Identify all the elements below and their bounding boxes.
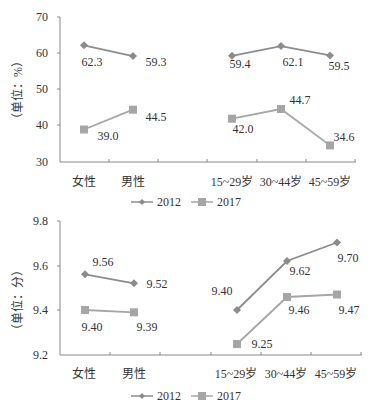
chart-canvas: （单位：%） 70 60 50 40 30 女性 男性 15~29岁 30~44… bbox=[0, 0, 372, 415]
top-label-2012-male: 59.3 bbox=[146, 55, 167, 69]
bottom-xcat-male: 男性 bbox=[122, 367, 146, 381]
top-ytick-70: 70 bbox=[36, 10, 48, 24]
top-label-2017-30-44: 44.7 bbox=[290, 93, 311, 107]
legend-diamond-icon bbox=[139, 199, 145, 205]
bottom-y-axis-label: （单位：分） bbox=[10, 264, 25, 336]
top-legend-2012: 2012 bbox=[157, 195, 181, 209]
bottom-label-2012-45-59: 9.70 bbox=[338, 251, 359, 265]
top-series-2017: 39.0 44.5 42.0 44.7 34.6 bbox=[80, 93, 355, 149]
bottom-series-2012: 9.56 9.52 9.40 9.62 9.70 bbox=[81, 239, 359, 315]
top-chart: （单位：%） 70 60 50 40 30 女性 男性 15~29岁 30~44… bbox=[10, 10, 356, 209]
top-label-2017-15-29: 42.0 bbox=[233, 122, 254, 136]
bottom-xcat-female: 女性 bbox=[72, 366, 96, 381]
bottom-xcat-15-29: 15~29岁 bbox=[215, 366, 258, 381]
bottom-label-2012-male: 9.52 bbox=[147, 277, 168, 291]
bottom-legend-2017: 2017 bbox=[217, 389, 241, 403]
top-ytick-40: 40 bbox=[36, 118, 48, 132]
top-legend: 2012 2017 bbox=[131, 195, 241, 209]
top-xcat-45-59: 45~59岁 bbox=[309, 174, 352, 189]
bottom-legend: 2012 2017 bbox=[131, 389, 241, 403]
top-label-2017-45-59: 34.6 bbox=[334, 130, 355, 144]
bottom-label-2012-female: 9.56 bbox=[93, 255, 114, 269]
legend-square-icon bbox=[198, 392, 206, 400]
top-ytick-60: 60 bbox=[36, 46, 48, 60]
bottom-label-2017-female: 9.40 bbox=[82, 320, 103, 334]
top-ytick-50: 50 bbox=[36, 82, 48, 96]
legend-square-icon bbox=[198, 198, 206, 206]
bottom-label-2017-45-59: 9.47 bbox=[339, 303, 360, 317]
bottom-ytick-9-2: 9.2 bbox=[33, 348, 48, 362]
bottom-legend-2012: 2012 bbox=[157, 389, 181, 403]
bottom-ytick-9-8: 9.8 bbox=[33, 214, 48, 228]
top-xcat-30-44: 30~44岁 bbox=[260, 174, 303, 189]
bottom-xcat-45-59: 45~59岁 bbox=[315, 366, 358, 381]
bottom-ytick-9-6: 9.6 bbox=[33, 259, 48, 273]
top-xcat-male: 男性 bbox=[121, 175, 145, 189]
top-series-2012: 62.3 59.3 59.4 62.1 59.5 bbox=[80, 41, 350, 73]
bottom-chart: （单位：分） 9.8 9.6 9.4 9.2 女性 男性 15~29岁 30~4… bbox=[10, 214, 362, 403]
top-label-2012-30-44: 62.1 bbox=[283, 55, 304, 69]
top-label-2012-15-29: 59.4 bbox=[230, 57, 251, 71]
bottom-label-2017-male: 9.39 bbox=[137, 320, 158, 334]
bottom-xcat-30-44: 30~44岁 bbox=[265, 366, 308, 381]
top-xcat-female: 女性 bbox=[72, 174, 96, 189]
bottom-label-2017-15-29: 9.25 bbox=[252, 337, 273, 351]
top-label-2017-male: 44.5 bbox=[146, 110, 167, 124]
top-ytick-30: 30 bbox=[36, 155, 48, 169]
legend-diamond-icon bbox=[139, 393, 145, 399]
top-y-axis-label: （单位：%） bbox=[10, 55, 25, 125]
top-label-2012-female: 62.3 bbox=[82, 55, 103, 69]
top-legend-2017: 2017 bbox=[217, 195, 241, 209]
bottom-label-2012-15-29: 9.40 bbox=[212, 284, 233, 298]
top-xcat-15-29: 15~29岁 bbox=[211, 174, 254, 189]
top-label-2017-female: 39.0 bbox=[98, 129, 119, 143]
top-label-2012-45-59: 59.5 bbox=[329, 59, 350, 73]
bottom-label-2017-30-44: 9.46 bbox=[289, 303, 310, 317]
bottom-series-2017: 9.40 9.39 9.25 9.46 9.47 bbox=[81, 291, 360, 352]
bottom-ytick-9-4: 9.4 bbox=[33, 303, 48, 317]
bottom-label-2012-30-44: 9.62 bbox=[290, 264, 311, 278]
